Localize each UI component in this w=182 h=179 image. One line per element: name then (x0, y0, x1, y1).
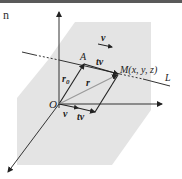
label-m: M(x, y, z) (119, 64, 158, 76)
label-v-direction: v (101, 32, 106, 43)
label-l: L (164, 72, 171, 83)
label-tv-bottom: tv (77, 111, 85, 122)
label-r: r (86, 77, 90, 88)
label-tv-top: tv (96, 56, 104, 67)
vector-line-diagram: v A tv M(x, y, z) L r0 r O v tv (0, 0, 182, 179)
label-o: O (49, 98, 57, 110)
label-a: A (79, 51, 87, 62)
label-v-bottom: v (63, 108, 68, 119)
plane-surface (17, 22, 151, 165)
